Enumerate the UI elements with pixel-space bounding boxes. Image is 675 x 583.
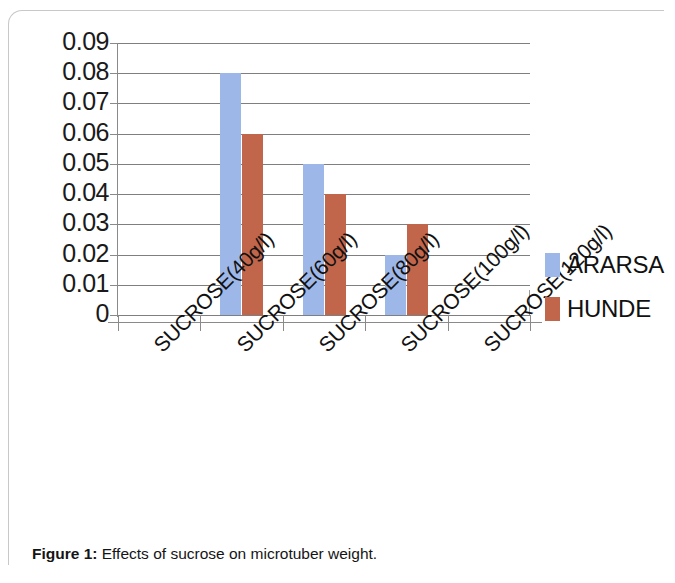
y-axis-tick-label: 0.08 [62, 57, 109, 86]
legend-label: ARARSA [567, 251, 664, 279]
y-axis-tick-label: 0.05 [62, 148, 109, 177]
figure-caption-label: Figure 1: [32, 545, 97, 562]
y-axis-tick-label: 0.02 [62, 239, 109, 268]
chart-legend: ARARSAHUNDE [545, 243, 675, 331]
bar-hunde-1 [242, 134, 263, 315]
y-axis-tick-label: 0.04 [62, 178, 109, 207]
legend-swatch-icon [545, 253, 560, 277]
bar-chart: 0.090.080.070.060.050.040.030.020.010 SU… [0, 0, 675, 525]
legend-item[interactable]: HUNDE [545, 287, 675, 331]
y-axis-tick-label: 0.03 [62, 208, 109, 237]
y-axis-tick-label: 0.09 [62, 27, 109, 56]
figure-caption: Figure 1: Effects of sucrose on microtub… [32, 545, 377, 563]
x-axis-category-labels: SUCROSE(40g/l)SUCROSE(60g/l)SUCROSE(80g/… [0, 315, 675, 525]
legend-label: HUNDE [567, 295, 651, 323]
y-axis-tick-label: 0.07 [62, 87, 109, 116]
figure-caption-text: Effects of sucrose on microtuber weight. [97, 545, 377, 562]
y-axis-tick-label: 0.06 [62, 118, 109, 147]
legend-item[interactable]: ARARSA [545, 243, 675, 287]
y-axis-tick-label: 0.01 [62, 269, 109, 298]
legend-swatch-icon [545, 297, 560, 321]
